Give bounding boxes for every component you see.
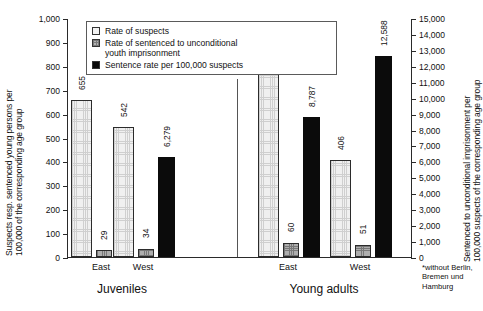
bar-value-label: 12,588 [379, 20, 387, 46]
y-tick-label-right: 12,000 [419, 63, 445, 72]
bar: 655 [71, 100, 92, 257]
y-tick-mark-right [411, 258, 416, 259]
legend-label-sentenced-line2: youth imprisonment [105, 48, 180, 58]
y-tick-mark-right [411, 99, 416, 100]
plot-area: 01002003004005006007008009001,000 01,000… [67, 19, 412, 258]
x-axis-region-label: West [113, 262, 173, 272]
legend-label-sentenced-line1: Rate of sentenced to unconditional [105, 38, 237, 48]
bar: 34 [138, 249, 154, 257]
y-axis-left-title: Suspects resp. sentenced young persons p… [4, 6, 24, 256]
y-tick-mark-left [63, 210, 68, 211]
y-tick-label-right: 3,000 [419, 206, 440, 215]
x-axis-region-label: West [330, 262, 390, 272]
legend-label-sentenced: Rate of sentenced to unconditional youth… [105, 38, 237, 59]
footnote-line3: Hamburg [422, 282, 482, 291]
y-tick-label-right: 1,000 [419, 238, 440, 247]
y-tick-mark-left [63, 19, 68, 20]
y-tick-label-left: 0 [55, 254, 60, 263]
y-tick-mark-right [411, 194, 416, 195]
y-tick-label-left: 900 [46, 39, 60, 48]
y-tick-label-right: 11,000 [419, 79, 444, 88]
y-tick-mark-left [63, 43, 68, 44]
bar-value-label: 655 [77, 76, 85, 90]
bar: 542 [113, 127, 134, 257]
bar-value-label: 51 [359, 225, 367, 234]
bar: 12,588 [375, 56, 392, 257]
legend-label-sentence-rate: Sentence rate per 100,000 suspects [105, 60, 243, 71]
bar: 406 [330, 160, 351, 257]
y-tick-label-right: 6,000 [419, 158, 440, 167]
y-tick-label-left: 600 [46, 111, 60, 120]
bar-chart: Suspects resp. sentenced young persons p… [0, 0, 483, 311]
x-axis-group-label: Young adults [264, 283, 384, 296]
y-tick-mark-right [411, 162, 416, 163]
y-tick-mark-left [63, 67, 68, 68]
y-tick-label-left: 500 [46, 135, 60, 144]
bar: 60 [283, 243, 299, 257]
legend-item-sentenced: Rate of sentenced to unconditional youth… [92, 38, 331, 59]
y-tick-label-left: 1,000 [39, 15, 60, 24]
legend-swatch-sentenced [92, 39, 100, 47]
y-tick-mark-left [63, 258, 68, 259]
bar-value-label: 60 [287, 223, 295, 232]
footnote: *without Berlin, Bremen und Hamburg [422, 263, 482, 291]
legend-swatch-sentence-rate [92, 61, 100, 69]
y-tick-mark-right [411, 242, 416, 243]
footnote-line2: Bremen und [422, 272, 482, 281]
group-divider [237, 79, 238, 257]
y-tick-label-right: 2,000 [419, 222, 440, 231]
y-axis-right-title: Sentenced to unconditional imprisonment … [462, 8, 482, 262]
y-tick-mark-left [63, 115, 68, 116]
bar: 823 [258, 60, 279, 257]
y-tick-mark-right [411, 35, 416, 36]
y-tick-mark-right [411, 226, 416, 227]
y-tick-label-left: 400 [46, 158, 60, 167]
legend-item-suspects: Rate of suspects [92, 26, 331, 37]
y-tick-mark-right [411, 51, 416, 52]
y-tick-mark-left [63, 91, 68, 92]
y-tick-label-left: 700 [46, 87, 60, 96]
legend-label-suspects: Rate of suspects [105, 26, 169, 37]
bar: 6,279 [158, 157, 175, 257]
y-axis-right-title-line2: 100,000 suspects of the corresponding ag… [472, 8, 482, 262]
bar-value-label: 6,279 [162, 126, 170, 147]
y-tick-label-right: 0 [419, 254, 424, 263]
y-tick-mark-right [411, 146, 416, 147]
y-tick-label-right: 4,000 [419, 190, 440, 199]
y-tick-mark-left [63, 234, 68, 235]
bar-value-label: 29 [100, 230, 108, 239]
y-tick-label-left: 300 [46, 182, 60, 191]
y-tick-label-left: 800 [46, 63, 60, 72]
bar: 8,787 [303, 117, 320, 257]
y-tick-mark-left [63, 186, 68, 187]
y-tick-mark-right [411, 83, 416, 84]
y-tick-mark-right [411, 19, 416, 20]
y-tick-mark-right [411, 210, 416, 211]
bar: 29 [96, 250, 112, 257]
bar-value-label: 8,787 [307, 86, 315, 107]
chart-legend: Rate of suspects Rate of sentenced to un… [86, 21, 337, 75]
y-axis-right-title-line1: Sentenced to unconditional imprisonment … [462, 8, 472, 262]
y-tick-mark-right [411, 178, 416, 179]
y-tick-label-right: 5,000 [419, 174, 440, 183]
y-tick-label-right: 13,000 [419, 47, 445, 56]
bar: 51 [355, 245, 371, 257]
x-axis-region-label: East [258, 262, 318, 272]
y-tick-mark-right [411, 115, 416, 116]
legend-swatch-suspects [92, 27, 100, 35]
y-tick-label-left: 100 [46, 230, 60, 239]
y-axis-left-title-line2: 100,000 of the corresponding age group [14, 6, 24, 256]
y-tick-label-right: 7,000 [419, 142, 440, 151]
y-tick-label-left: 200 [46, 206, 60, 215]
y-tick-label-right: 14,000 [419, 31, 445, 40]
bar-value-label: 34 [142, 229, 150, 238]
bar-value-label: 406 [336, 136, 344, 150]
y-axis-left-title-line1: Suspects resp. sentenced young persons p… [4, 6, 14, 256]
legend-item-sentence-rate: Sentence rate per 100,000 suspects [92, 60, 331, 71]
y-tick-mark-left [63, 162, 68, 163]
x-axis-group-label: Juveniles [62, 283, 182, 296]
y-tick-label-right: 9,000 [419, 111, 440, 120]
bar-value-label: 542 [119, 103, 127, 117]
y-tick-mark-left [63, 139, 68, 140]
y-tick-label-right: 10,000 [419, 95, 445, 104]
